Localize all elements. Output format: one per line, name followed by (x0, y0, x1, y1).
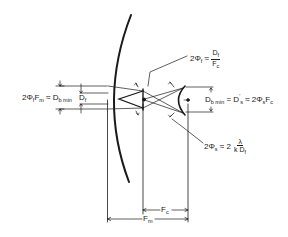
numerator: λ (238, 138, 242, 145)
sub: c (217, 63, 220, 69)
label-df: Df (79, 94, 86, 104)
sub: c (270, 99, 273, 105)
phi-s-symbol: 2Φ (204, 142, 215, 151)
label-top-equation: 2Φf ≈ Df Fc (190, 49, 220, 70)
approx-symbol: ≈ (44, 93, 53, 102)
label-bottom-equation: 2Φs ≈ 2 λ k Df (204, 138, 247, 156)
secondary-focus (187, 99, 190, 102)
sub: c (166, 209, 169, 215)
sub: m (148, 218, 153, 224)
sub: b min (211, 99, 224, 105)
label-left-equation: 2ΦfFm ≈ Db min (22, 94, 72, 104)
label-right-equation: Db min = D′s ≈ 2ΦsFc (205, 94, 273, 105)
sub: f (245, 149, 247, 155)
approx-symbol: ≈ 2Φ (243, 95, 263, 104)
label-fc: Fc (161, 206, 169, 216)
approx-symbol: ≈ (202, 54, 211, 63)
phi-f-symbol: 2Φ (22, 93, 33, 102)
leader-top (148, 56, 187, 86)
feed-horn (119, 91, 143, 108)
denominator: k D (234, 146, 245, 153)
phi-f-symbol: 2Φ (190, 54, 201, 63)
fraction-lambda-kdf: λ k Df (233, 138, 247, 156)
optical-diagram (0, 0, 288, 237)
fraction-df-fc: Df Fc (211, 49, 220, 70)
label-fm: Fm (143, 215, 152, 225)
sub: b min (58, 97, 71, 103)
approx-symbol: ≈ 2 (218, 142, 234, 151)
sub: f (85, 97, 87, 103)
equals-symbol: = (224, 95, 233, 104)
secondary-mirror (179, 86, 186, 115)
sub: f (218, 52, 220, 58)
leader-bottom (172, 119, 203, 143)
